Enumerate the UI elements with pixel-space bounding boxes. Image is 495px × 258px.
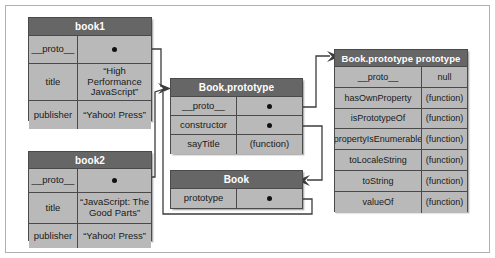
prototype-chain-diagram: book1 __proto__ title “High Performance … [0,0,495,258]
row-value: (function) [422,109,467,129]
row-value: “Yahoo! Press” [78,101,151,129]
row-value-pointer [237,116,302,134]
row-value: (function) [422,171,467,191]
table-row: toString (function) [335,171,467,192]
row-key: prototype [171,189,237,208]
table-title-book2: book2 [29,152,151,169]
row-value-pointer [237,97,302,115]
row-key: constructor [171,116,237,134]
table-row: hasOwnProperty (function) [335,88,467,109]
row-key: publisher [29,101,78,129]
table-row: __proto__ [29,36,151,64]
row-value: (function) [422,150,467,170]
pointer-dot [112,178,117,183]
row-value: null [422,67,467,87]
table-row: publisher “Yahoo! Press” [29,101,151,129]
table-title-book-prototype-prototype: Book.prototype prototype [335,50,467,67]
row-key: propertyIsEnumerable [335,129,422,149]
table-row: toLocaleString (function) [335,150,467,171]
row-key: __proto__ [29,169,78,192]
table-row: __proto__ [171,97,302,116]
table-title-book: Book [171,171,302,189]
row-key: __proto__ [335,67,422,87]
table-row: prototype [171,189,302,208]
pointer-dot [267,196,272,201]
row-key: hasOwnProperty [335,88,422,108]
row-key: toString [335,171,422,191]
table-book2: book2 __proto__ title “JavaScript: The G… [28,151,152,241]
row-key: toLocaleString [335,150,422,170]
row-value: “Yahoo! Press” [78,224,151,248]
table-title-book-prototype: Book.prototype [171,79,302,97]
table-row: propertyIsEnumerable (function) [335,129,467,150]
table-row: __proto__ null [335,67,467,88]
table-book: Book prototype [170,170,303,209]
row-key: title [29,64,78,100]
table-row: valueOf (function) [335,192,467,213]
row-value-pointer [78,169,151,192]
row-key: title [29,193,78,223]
row-key: __proto__ [29,36,78,63]
row-key: sayTitle [171,135,237,154]
table-row: publisher “Yahoo! Press” [29,224,151,248]
row-key: __proto__ [171,97,237,115]
row-key: isPrototypeOf [335,109,422,129]
table-row: __proto__ [29,169,151,193]
table-row: isPrototypeOf (function) [335,109,467,130]
table-book-prototype-prototype: Book.prototype prototype __proto__ null … [334,49,468,212]
table-book-prototype: Book.prototype __proto__ constructor say… [170,78,303,154]
table-row: title “JavaScript: The Good Parts” [29,193,151,224]
row-key: valueOf [335,192,422,213]
pointer-dot [267,104,272,109]
table-row: constructor [171,116,302,135]
pointer-dot [267,123,272,128]
table-row: title “High Performance JavaScript” [29,64,151,101]
row-value-pointer [237,189,302,208]
row-value: (function) [422,88,467,108]
table-title-book1: book1 [29,18,151,36]
row-value: (function) [237,135,302,154]
row-value-pointer [78,36,151,63]
row-value: (function) [422,129,467,149]
row-value: “High Performance JavaScript” [78,64,151,100]
row-value: “JavaScript: The Good Parts” [78,193,151,223]
row-key: publisher [29,224,78,248]
table-row: sayTitle (function) [171,135,302,154]
pointer-dot [112,47,117,52]
row-value: (function) [422,192,467,213]
table-book1: book1 __proto__ title “High Performance … [28,17,152,121]
